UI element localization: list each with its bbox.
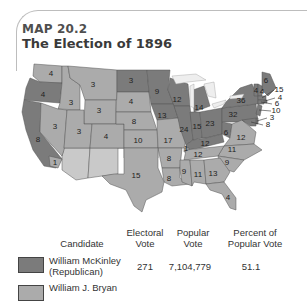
democrat-swatch (18, 285, 44, 301)
electoral-votes-label: 15 (132, 171, 141, 180)
electoral-votes-label: 4 (41, 90, 46, 99)
electoral-votes-label: 23 (206, 119, 215, 128)
electoral-votes-label: 3 (97, 106, 102, 115)
electoral-votes-label: 3 (270, 113, 275, 122)
electoral-votes-label: 3 (53, 122, 58, 131)
electoral-votes-label: 8 (266, 120, 271, 129)
arizona-territory (62, 148, 90, 180)
lake-michigan (190, 84, 194, 108)
electoral-votes-label: 9 (155, 87, 160, 96)
popular-vote: 7,104,779 (160, 261, 220, 272)
candidate-name-line1: William J. Bryan (49, 282, 117, 293)
state-florida (206, 182, 236, 210)
electoral-votes-label: 9 (182, 167, 187, 176)
electoral-votes-label: 10 (134, 136, 143, 145)
electoral-votes-label: 17 (164, 136, 173, 145)
electoral-votes-label: 6 (264, 76, 269, 85)
republican-swatch (18, 257, 44, 273)
election-map: 4481333334348109131712241415231216323612… (0, 0, 294, 225)
electoral-votes-label: 3 (129, 76, 134, 85)
electoral-votes-label: 13 (209, 169, 218, 178)
electoral-votes-label: 8 (167, 154, 172, 163)
electoral-votes-label: 14 (195, 103, 204, 112)
new-mexico-territory (88, 148, 118, 178)
electoral-vote: 271 (125, 261, 165, 272)
electoral-votes-label: 6 (224, 128, 229, 137)
percent-vote: 51.1 (226, 261, 276, 272)
electoral-votes-label: 1 (53, 158, 58, 167)
header-percent: Percent of Popular Vote (216, 227, 294, 249)
electoral-votes-label: 4 (226, 193, 231, 202)
electoral-votes-label: 13 (158, 111, 167, 120)
electoral-votes-label: 8 (132, 117, 137, 126)
electoral-votes-label: 12 (237, 133, 246, 142)
electoral-votes-label: 9 (225, 158, 230, 167)
header-popular: Popular Vote (166, 227, 220, 249)
electoral-votes-label: 4 (104, 132, 109, 141)
electoral-votes-label: 36 (237, 96, 246, 105)
candidate-name-line1: William McKinley (49, 255, 121, 266)
electoral-votes-label: 32 (229, 110, 238, 119)
electoral-votes-label: 12 (194, 150, 203, 159)
header-percent-line2: Popular Vote (216, 238, 294, 249)
electoral-votes-label: 12 (173, 95, 182, 104)
leader-line (265, 98, 275, 101)
candidate-name: William McKinley (Republican) (49, 255, 121, 277)
electoral-votes-label: 4 (129, 97, 134, 106)
state-washington (33, 64, 62, 83)
electoral-votes-label: 3 (77, 127, 82, 136)
electoral-votes-label: 3 (69, 98, 74, 107)
header-electoral: Electoral Vote (120, 227, 170, 249)
electoral-votes-label: 4 (49, 69, 54, 78)
electoral-votes-label: 3 (91, 80, 96, 89)
lake-superior (172, 74, 206, 84)
electoral-votes-label: 24 (180, 125, 189, 134)
state-south-dakota (116, 92, 151, 112)
header-percent-line1: Percent of (216, 227, 294, 238)
header-candidate: Candidate (52, 238, 112, 249)
electoral-votes-label: 12 (201, 139, 210, 148)
electoral-votes-label: 8 (167, 174, 172, 183)
electoral-votes-label: 15 (193, 122, 202, 131)
electoral-votes-label: 8 (36, 135, 41, 144)
header-electoral-line1: Electoral (120, 227, 170, 238)
electoral-votes-label: 4 (254, 86, 259, 95)
header-electoral-line2: Vote (120, 238, 170, 249)
candidate-name: William J. Bryan (49, 282, 117, 293)
electoral-votes-label: 11 (194, 170, 203, 179)
header-popular-line1: Popular (166, 227, 220, 238)
candidate-party: (Republican) (49, 266, 121, 277)
header-popular-line2: Vote (166, 238, 220, 249)
electoral-votes-label: 11 (228, 145, 237, 154)
electoral-votes-label: 1 (184, 144, 189, 153)
electoral-votes-label: 4 (260, 87, 265, 96)
